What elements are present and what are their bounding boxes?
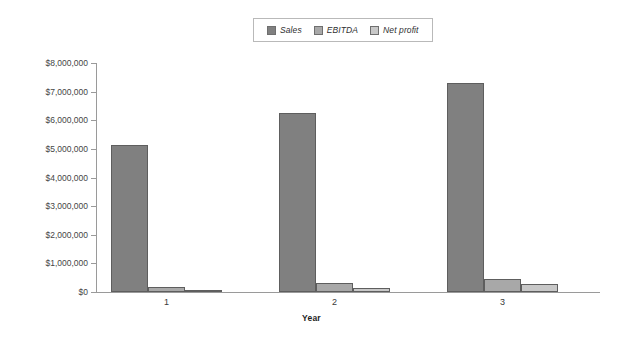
- y-axis-tick-label: $6,000,000: [14, 115, 88, 125]
- bar-sales-year-1: [111, 145, 148, 292]
- y-axis-tick-label: $0: [14, 287, 88, 297]
- y-axis-tick-label: $7,000,000: [14, 87, 88, 97]
- y-axis-tick-label: $2,000,000: [14, 230, 88, 240]
- bar-net-profit-year-1: [185, 290, 222, 292]
- y-axis-line: [96, 63, 97, 293]
- bar-sales-year-2: [279, 113, 316, 292]
- y-axis-tick: [91, 63, 96, 64]
- y-axis-tick: [91, 92, 96, 93]
- bar-net-profit-year-2: [353, 288, 390, 292]
- y-axis-tick: [91, 263, 96, 264]
- y-axis-tick-label: $4,000,000: [14, 173, 88, 183]
- y-axis-tick-label: $5,000,000: [14, 144, 88, 154]
- bar-ebitda-year-3: [484, 279, 521, 292]
- y-axis-tick: [91, 120, 96, 121]
- x-axis-tick-label-2: 2: [315, 297, 355, 307]
- y-axis-tick-label: $1,000,000: [14, 258, 88, 268]
- x-axis-tick-label-1: 1: [147, 297, 187, 307]
- bar-chart-plot-area: $0$1,000,000$2,000,000$3,000,000$4,000,0…: [0, 0, 623, 337]
- y-axis-tick: [91, 235, 96, 236]
- bar-sales-year-3: [447, 83, 484, 292]
- x-axis-title: Year: [0, 313, 623, 323]
- y-axis-tick: [91, 206, 96, 207]
- bar-ebitda-year-2: [316, 283, 353, 292]
- y-axis-tick: [91, 178, 96, 179]
- x-axis-line: [96, 292, 600, 293]
- x-axis-tick-label-3: 3: [483, 297, 523, 307]
- y-axis-tick: [91, 149, 96, 150]
- y-axis-tick-label: $3,000,000: [14, 201, 88, 211]
- bar-ebitda-year-1: [148, 287, 185, 292]
- bar-net-profit-year-3: [521, 284, 558, 292]
- y-axis-tick: [91, 292, 96, 293]
- y-axis-tick-label: $8,000,000: [14, 58, 88, 68]
